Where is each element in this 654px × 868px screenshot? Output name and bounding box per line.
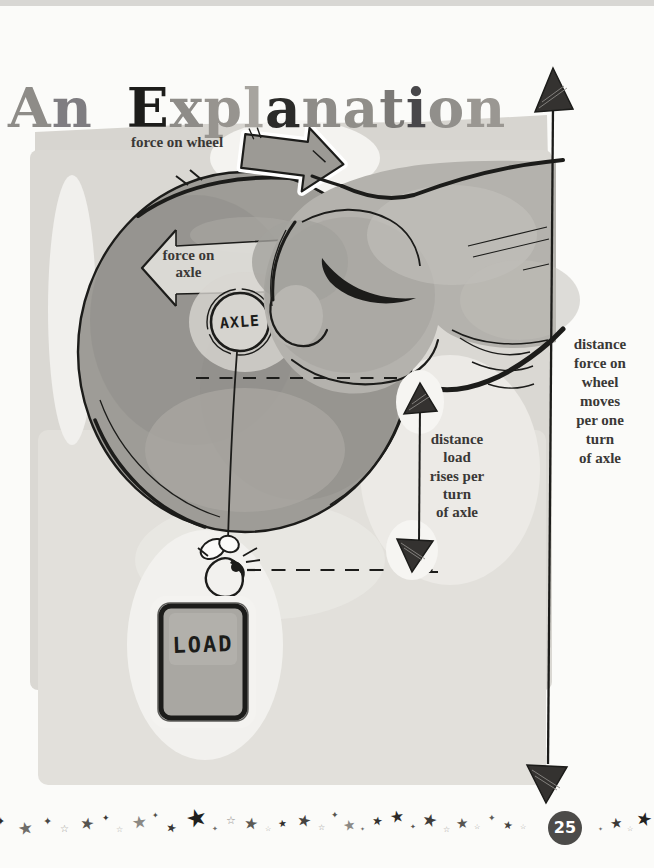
page-title: An Explanation: [8, 75, 568, 140]
page-number-badge: 25: [548, 811, 582, 845]
title-letter: E: [127, 75, 170, 140]
title-letter: o: [428, 75, 466, 140]
title-letter: n: [52, 75, 93, 140]
title-letter: A: [8, 75, 52, 140]
title-letter: n: [302, 75, 343, 140]
distance-wheel-label: distance force on wheel moves per one tu…: [549, 335, 651, 468]
book-page: An Explanation force on wheel force on a…: [0, 0, 654, 868]
title-letter: a: [343, 75, 380, 140]
load-box: [150, 596, 256, 728]
load-label: LOAD: [162, 631, 245, 659]
title-letter: t: [379, 75, 405, 140]
title-letter: a: [265, 75, 302, 140]
force-on-wheel-label: force on wheel: [112, 134, 242, 151]
title-letter: i: [406, 75, 428, 140]
title-letter: l: [243, 75, 265, 140]
title-letter: x: [170, 75, 204, 140]
title-letter: p: [204, 75, 243, 140]
distance-load-label: distance load rises per turn of axle: [402, 430, 512, 521]
title-letter: n: [465, 75, 506, 140]
title-letter: [93, 75, 127, 140]
force-on-axle-label: force on axle: [136, 247, 241, 282]
